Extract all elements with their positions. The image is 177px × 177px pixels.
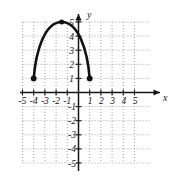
x-tick-label-1: 1: [88, 96, 93, 106]
x-tick-label--2: -2: [52, 96, 60, 106]
y-axis-label: y: [86, 9, 92, 20]
y-tick-label--3: -3: [68, 130, 76, 140]
y-tick-label-4: 4: [69, 32, 74, 42]
coordinate-plane-graph: -5 -4 -3 -2 -1 1 2 3 4 5 5 4: [0, 0, 177, 177]
x-tick-label-2: 2: [99, 96, 104, 106]
x-tick-label--5: -5: [19, 96, 27, 106]
x-axis-label: x: [162, 92, 168, 103]
y-axis-arrow-icon: [75, 14, 81, 21]
y-tick-label-1: 1: [69, 74, 74, 84]
x-tick-label--4: -4: [30, 96, 38, 106]
y-tick-label--2: -2: [68, 116, 76, 126]
x-tick-label--3: -3: [41, 96, 49, 106]
x-tick-label-3: 3: [109, 96, 115, 106]
y-tick-label--1: -1: [68, 102, 76, 112]
right-endpoint-marker: [87, 76, 93, 82]
left-endpoint-marker: [31, 76, 37, 82]
y-tick-label--5: -5: [68, 159, 76, 169]
y-tick-label-3: 3: [68, 46, 74, 56]
vertex-point-marker: [59, 20, 64, 25]
graph-screenshot: -5 -4 -3 -2 -1 1 2 3 4 5 5 4: [0, 0, 177, 177]
x-tick-label-4: 4: [121, 96, 126, 106]
y-tick-label-2: 2: [69, 60, 74, 70]
x-tick-label-5: 5: [133, 96, 138, 106]
y-tick-label--4: -4: [68, 144, 76, 154]
x-axis-arrow-icon: [154, 89, 161, 95]
